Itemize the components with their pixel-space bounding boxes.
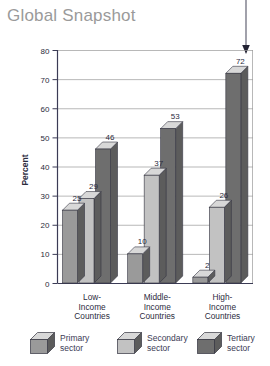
- cube-icon-primary: [30, 332, 56, 356]
- x-axis-category-label: Countries: [205, 311, 241, 321]
- bar-value-label: 25: [73, 194, 82, 203]
- bar-value-label: 46: [106, 133, 115, 142]
- y-tick-label: 20: [41, 221, 50, 230]
- bars-group: [63, 66, 248, 283]
- y-tick-label: 60: [41, 105, 50, 114]
- legend-item-label: Tertiarysector: [227, 333, 255, 353]
- bar-value-label: 29: [89, 182, 98, 191]
- bar: [128, 247, 150, 283]
- x-axis-category-labels: Low-IncomeCountriesMiddle-IncomeCountrie…: [74, 292, 240, 321]
- chart-legend: PrimarysectorSecondarysectorTertiarysect…: [0, 330, 270, 366]
- cube-icon-tertiary: [197, 332, 223, 356]
- legend-label-line2: sector: [60, 343, 89, 353]
- x-axis-category-label: Income: [78, 302, 106, 312]
- bar-value-label: 10: [138, 237, 147, 246]
- x-axis-category-label: Countries: [74, 311, 110, 321]
- bar: [63, 203, 85, 283]
- legend-label-line1: Primary: [60, 333, 89, 343]
- y-tick-label: 70: [41, 76, 50, 85]
- y-tick-label: 50: [41, 134, 50, 143]
- legend-item-label: Secondarysector: [147, 333, 188, 353]
- y-tick-label: 10: [41, 250, 50, 259]
- down-arrow-icon: [242, 0, 250, 54]
- bar-value-label: 72: [236, 57, 245, 66]
- bar-chart-plot: 80706050403020100 Percent 46292553371072…: [0, 0, 270, 330]
- y-tick-label: 80: [41, 47, 50, 56]
- cube-icon-secondary: [117, 332, 143, 356]
- legend-label-line1: Secondary: [147, 333, 188, 343]
- x-axis-category-label: Income: [209, 302, 237, 312]
- y-tick-label: 40: [41, 163, 50, 172]
- x-axis-category-label: Middle-: [144, 292, 171, 302]
- x-axis-category-label: Low-: [83, 292, 101, 302]
- bar-value-label: 26: [219, 191, 228, 200]
- x-axis-category-label: Income: [144, 302, 172, 312]
- y-tick-label: 0: [45, 280, 50, 289]
- legend-label-line1: Tertiary: [227, 333, 255, 343]
- y-axis-ticks: 80706050403020100: [41, 47, 58, 289]
- bar-value-label: 53: [171, 112, 180, 121]
- x-axis-category-label: Countries: [139, 311, 175, 321]
- bar-value-label: 2: [205, 261, 210, 270]
- y-axis-label: Percent: [20, 154, 30, 185]
- y-tick-label: 30: [41, 192, 50, 201]
- chart-figure: Global Snapshot 80706050403020100 Percen…: [0, 0, 270, 366]
- legend-label-line2: sector: [147, 343, 188, 353]
- legend-item-label: Primarysector: [60, 333, 89, 353]
- bar-value-label: 37: [154, 159, 163, 168]
- legend-label-line2: sector: [227, 343, 255, 353]
- x-axis-category-label: High-: [213, 292, 233, 302]
